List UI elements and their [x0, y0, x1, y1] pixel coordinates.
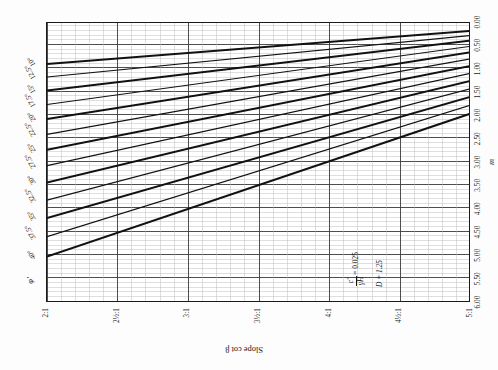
angle-label: 40° [26, 248, 38, 261]
series-layer [47, 23, 469, 301]
y-tick-label: 3.00 [474, 156, 482, 169]
x-tick-label: 4½:1 [395, 308, 403, 370]
series-line [47, 113, 470, 256]
series-line [47, 73, 470, 165]
y-axis-title: m [487, 159, 496, 165]
y-tick-label: 0.50 [474, 39, 482, 52]
y-tick-label: 3.50 [474, 179, 482, 192]
x-axis-title: Slope cot β [225, 345, 263, 354]
y-tick-label: 6.00 [474, 296, 482, 309]
y-tick-label: 4.00 [474, 202, 482, 215]
series-line [47, 97, 470, 218]
angle-label: 30° [26, 174, 38, 187]
series-line [47, 52, 470, 119]
y-tick-label: 2.00 [474, 109, 482, 122]
cohesion-ratio: c′ γH [347, 276, 365, 286]
angle-label: 32.5° [23, 187, 37, 204]
rotated-figure-wrapper: c′ γH = 0.025 D = 1.25 2:12½:13:13½:14:1… [0, 0, 498, 370]
figure-body: c′ γH = 0.025 D = 1.25 2:12½:13:13½:14:1… [0, 0, 498, 370]
series-svg [47, 22, 470, 301]
y-tick-label: 4.50 [474, 226, 482, 239]
angle-label: 22.5° [23, 121, 37, 138]
ratio-denominator: γH [357, 276, 366, 286]
series-line [47, 66, 470, 150]
y-tick-label: 0.00 [474, 16, 482, 29]
ratio-value: = 0.025 [351, 252, 360, 275]
angle-label: 37.5° [23, 223, 37, 240]
x-tick-label: 5:1 [466, 308, 474, 370]
angle-label: 25° [26, 141, 38, 154]
y-tick-label: 1.00 [474, 62, 482, 75]
x-tick-label: 4:1 [325, 308, 333, 370]
y-tick-label: 2.50 [474, 132, 482, 145]
y-tick-label: 5.50 [474, 272, 482, 285]
angle-label: 27.5° [23, 152, 37, 169]
depth-factor: D = 1.25 [376, 252, 385, 287]
angle-label: 35° [26, 209, 38, 222]
phi-legend-title: φ′ [26, 277, 35, 283]
x-tick-label: 3½:1 [254, 308, 262, 370]
x-tick-label: 3:1 [183, 308, 191, 370]
x-tick-label: 2:1 [42, 308, 50, 370]
y-tick-label: 5.00 [474, 249, 482, 262]
series-line [47, 105, 470, 237]
chart-annotation: c′ γH = 0.025 D = 1.25 [347, 252, 385, 287]
series-line [47, 89, 470, 201]
x-tick-label: 2½:1 [113, 308, 121, 370]
plot-area: c′ γH = 0.025 D = 1.25 [46, 22, 470, 302]
chart-figure: c′ γH = 0.025 D = 1.25 2:12½:13:13½:14:1… [0, 0, 498, 370]
y-tick-label: 1.50 [474, 86, 482, 99]
